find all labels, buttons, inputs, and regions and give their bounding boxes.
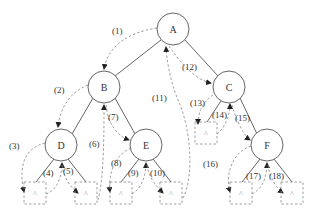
null-box-c-left: ^ xyxy=(195,122,217,144)
svg-text:^: ^ xyxy=(204,130,208,139)
tree-diagram: ^ ^ ^ ^ ^ ^ ^ A xyxy=(0,0,312,216)
node-d: D xyxy=(45,129,77,161)
step-label-13: (13) xyxy=(190,98,205,108)
svg-text:^: ^ xyxy=(239,190,243,199)
null-box-e-left: ^ xyxy=(110,182,132,204)
svg-text:^: ^ xyxy=(169,190,173,199)
step-label-6: (6) xyxy=(89,139,100,149)
step-16-arrow xyxy=(228,146,251,192)
step-label-14: (14) xyxy=(212,110,227,120)
svg-text:^: ^ xyxy=(33,190,37,199)
svg-text:F: F xyxy=(264,140,270,151)
step-label-16: (16) xyxy=(203,159,218,169)
svg-text:B: B xyxy=(101,82,108,93)
step-label-18: (18) xyxy=(269,171,284,181)
edge-a-b xyxy=(115,40,161,76)
step-label-15: (15) xyxy=(235,113,250,123)
step-3-arrow xyxy=(22,143,45,192)
step-label-11: (11) xyxy=(152,93,167,103)
svg-text:A: A xyxy=(169,24,177,35)
svg-text:E: E xyxy=(143,140,149,151)
tree-nodes: A B C D E F xyxy=(45,13,283,161)
null-box-d-right: ^ xyxy=(75,182,97,204)
step-label-5: (5) xyxy=(63,166,74,176)
step-6-arrow xyxy=(98,105,104,200)
node-f: F xyxy=(251,129,283,161)
step-label-4: (4) xyxy=(43,168,54,178)
node-c: C xyxy=(213,71,245,103)
step-label-12: (12) xyxy=(182,62,197,72)
svg-text:D: D xyxy=(57,140,64,151)
step-label-8: (8) xyxy=(111,158,122,168)
null-box-f-left: ^ xyxy=(230,182,252,204)
step-7-arrow xyxy=(106,105,129,140)
svg-text:C: C xyxy=(226,82,233,93)
null-box-f-right: ^ xyxy=(281,182,303,204)
step-label-10: (10) xyxy=(150,168,165,178)
tree-edges xyxy=(36,40,292,182)
step-label-3: (3) xyxy=(9,141,20,151)
node-b: B xyxy=(88,71,120,103)
svg-text:^: ^ xyxy=(119,190,123,199)
edge-b-d xyxy=(72,98,93,134)
step-label-7: (7) xyxy=(108,112,119,122)
null-box-d-left: ^ xyxy=(24,182,46,204)
step-label-2: (2) xyxy=(54,85,65,95)
null-box-e-right: ^ xyxy=(160,182,182,204)
svg-text:^: ^ xyxy=(84,190,88,199)
svg-text:^: ^ xyxy=(290,190,294,199)
node-e: E xyxy=(130,129,162,161)
node-a: A xyxy=(157,13,189,45)
step-label-1: (1) xyxy=(112,26,123,36)
step-label-9: (9) xyxy=(128,168,139,178)
step-label-17: (17) xyxy=(246,171,261,181)
